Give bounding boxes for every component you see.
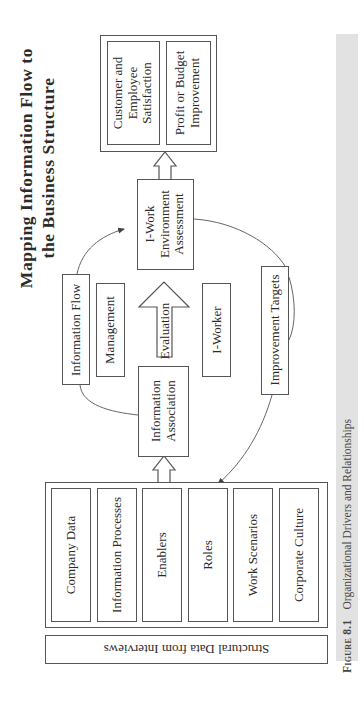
assessment-label: I-Work Environment Assessment bbox=[143, 190, 187, 258]
targets-bulge-curve bbox=[289, 277, 294, 340]
flow-to-assessment-curve bbox=[77, 229, 124, 274]
assessment-to-outcomes-arrow bbox=[154, 152, 176, 180]
figure-number: Figure 8.1 bbox=[341, 619, 353, 673]
assessment-to-targets-curve bbox=[194, 219, 285, 266]
evaluation-label: Evaluation bbox=[157, 303, 172, 359]
management-label: Management bbox=[103, 296, 118, 364]
outcome-label-1: Customer and Employee Satisfaction bbox=[111, 57, 155, 130]
structural-data-source-label: Structural Data from Interviews bbox=[45, 635, 328, 664]
outcome-1-line-2: Employee bbox=[126, 57, 141, 130]
assessment-line-1: I-Work bbox=[143, 190, 158, 258]
figure-caption: Figure 8.1Organizational Drivers and Rel… bbox=[341, 419, 354, 673]
structure-label-enablers: Enablers bbox=[155, 532, 170, 577]
information-flow-label: Information Flow bbox=[69, 284, 84, 376]
structure-label-corporate-culture: Corporate Culture bbox=[292, 508, 307, 602]
figure-caption-text: Organizational Drivers and Relationships bbox=[341, 419, 353, 609]
outcome-2-line-2: Improvement bbox=[188, 51, 203, 136]
i-worker-label: I-Worker bbox=[209, 306, 224, 353]
title-line-2: the Business Structure bbox=[38, 48, 60, 288]
structure-label-work-scenarios: Work Scenarios bbox=[246, 514, 261, 596]
assessment-line-2: Environment bbox=[158, 190, 173, 258]
outcome-1-line-1: Customer and bbox=[111, 57, 126, 130]
assessment-line-3: Assessment bbox=[172, 190, 187, 258]
structure-label-roles: Roles bbox=[201, 540, 216, 570]
association-line-1: Information bbox=[149, 380, 164, 442]
outcome-1-line-3: Satisfaction bbox=[140, 57, 155, 130]
improvement-targets-label: Improvement Targets bbox=[268, 275, 283, 386]
outcome-label-2: Profit or Budget Improvement bbox=[173, 51, 202, 136]
assoc-to-flow-curve bbox=[80, 385, 138, 415]
association-line-2: Association bbox=[164, 380, 179, 442]
targets-to-roles-curve bbox=[218, 395, 272, 484]
information-association-label: Information Association bbox=[149, 380, 178, 442]
outcome-2-line-1: Profit or Budget bbox=[173, 51, 188, 136]
structure-label-information-processes: Information Processes bbox=[110, 497, 125, 613]
structure-label-company-data: Company Data bbox=[64, 516, 79, 594]
diagram-title: Mapping Information Flow to the Business… bbox=[16, 48, 60, 288]
title-line-1: Mapping Information Flow to bbox=[16, 48, 38, 288]
structure-to-association-arrow bbox=[153, 456, 175, 482]
